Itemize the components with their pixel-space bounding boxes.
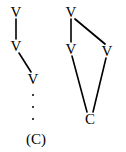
vertical-ellipsis-icon: [32, 94, 34, 120]
ellipsis-dot: [32, 106, 34, 108]
node-left-v3: V: [28, 72, 39, 87]
node-left-v2: V: [11, 39, 22, 54]
node-left-v1: V: [11, 5, 22, 20]
node-right-c: C: [85, 112, 95, 127]
edge-r1-r3: [75, 19, 105, 44]
ellipsis-dot: [32, 94, 34, 96]
edge-r3-r4: [93, 58, 106, 112]
graph-figure: V V V (C) V V V C: [0, 0, 126, 152]
node-right-v1: V: [66, 5, 77, 20]
graph-edges-layer: [0, 0, 126, 152]
node-right-v3: V: [102, 44, 113, 59]
edge-l2-l3: [19, 53, 31, 72]
left-graph-caption: (C): [26, 131, 46, 147]
edge-r2-r4: [72, 56, 87, 112]
ellipsis-dot: [32, 118, 34, 120]
node-right-v2: V: [66, 42, 77, 57]
